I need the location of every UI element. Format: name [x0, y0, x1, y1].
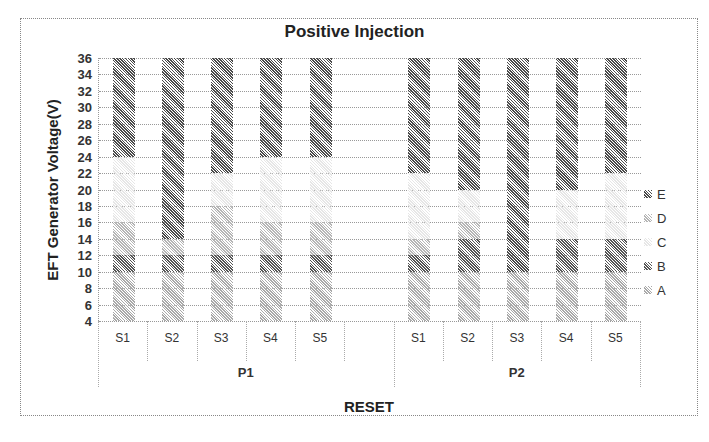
- bar-segment-C: [556, 190, 578, 239]
- bar-segment-E: [162, 58, 184, 239]
- y-tick-label: 10: [62, 264, 92, 279]
- bar-segment-C: [458, 190, 480, 223]
- x-separator: [443, 321, 444, 361]
- bar-segment-E: [113, 58, 135, 157]
- bar-segment-E: [260, 58, 282, 157]
- bar-segment-A: [113, 272, 135, 321]
- bar-segment-B: [556, 239, 578, 272]
- legend-label: D: [657, 211, 666, 226]
- x-separator: [197, 321, 198, 361]
- stacked-bar: [260, 58, 282, 321]
- legend-item-A: A: [644, 278, 666, 302]
- x-category-label: S1: [398, 331, 438, 345]
- stacked-bar: [162, 58, 184, 321]
- legend-swatch: [644, 190, 652, 198]
- bar-segment-B: [458, 239, 480, 272]
- stacked-bar: [605, 58, 627, 321]
- x-category-label: S3: [201, 331, 241, 345]
- bar-segment-D: [408, 239, 430, 255]
- x-separator: [640, 321, 641, 387]
- bar-segment-D: [162, 239, 184, 255]
- bar-segment-C: [605, 173, 627, 239]
- bar-segment-E: [605, 58, 627, 173]
- y-tick-label: 24: [62, 149, 92, 164]
- x-separator: [591, 321, 592, 361]
- bar-segment-C: [113, 157, 135, 223]
- bar-segment-A: [260, 272, 282, 321]
- bar-segment-C: [408, 173, 430, 239]
- bar-segment-A: [605, 272, 627, 321]
- bar-segment-A: [310, 272, 332, 321]
- bar-segment-D: [113, 222, 135, 255]
- bar-segment-A: [507, 272, 529, 321]
- y-tick-label: 28: [62, 116, 92, 131]
- y-tick-label: 20: [62, 182, 92, 197]
- x-axis: S1S2S3S4S5S1S2S3S4S5P1P2: [98, 321, 640, 387]
- stacked-bar: [211, 58, 233, 321]
- bar-segment-E: [211, 58, 233, 173]
- bar-segment-D: [211, 206, 233, 255]
- bar-segment-E: [458, 58, 480, 190]
- x-category-label: S4: [250, 331, 290, 345]
- stacked-bar: [507, 58, 529, 321]
- y-tick-label: 22: [62, 166, 92, 181]
- x-category-label: S4: [546, 331, 586, 345]
- bar-segment-D: [458, 222, 480, 238]
- legend-swatch: [644, 238, 652, 246]
- bar-segment-B: [211, 255, 233, 271]
- x-category-label: S2: [448, 331, 488, 345]
- x-group-label: P1: [226, 365, 266, 380]
- y-tick-label: 12: [62, 248, 92, 263]
- bar-segment-C: [260, 157, 282, 223]
- stacked-bar: [408, 58, 430, 321]
- y-tick-label: 6: [62, 297, 92, 312]
- x-group-label: P2: [497, 365, 537, 380]
- bar-segment-B: [260, 255, 282, 271]
- y-tick-label: 26: [62, 133, 92, 148]
- x-category-label: S5: [300, 331, 340, 345]
- x-category-label: S3: [497, 331, 537, 345]
- bar-segment-B: [605, 239, 627, 272]
- bar-segment-E: [507, 58, 529, 272]
- x-separator: [98, 321, 99, 387]
- legend-swatch: [644, 286, 652, 294]
- stacked-bar: [113, 58, 135, 321]
- chart-title: Positive Injection: [0, 22, 709, 42]
- bar-segment-D: [260, 222, 282, 255]
- bar-segment-A: [162, 272, 184, 321]
- y-tick-label: 32: [62, 83, 92, 98]
- legend-label: E: [657, 187, 666, 202]
- stacked-bar: [556, 58, 578, 321]
- y-tick-label: 14: [62, 231, 92, 246]
- bar-segment-A: [408, 272, 430, 321]
- legend-item-E: E: [644, 182, 666, 206]
- bar-segment-B: [310, 255, 332, 271]
- bar-segment-E: [556, 58, 578, 190]
- bar-segment-D: [310, 222, 332, 255]
- legend-label: A: [657, 283, 666, 298]
- x-axis-label: RESET: [98, 398, 640, 415]
- legend-item-C: C: [644, 230, 666, 254]
- x-category-label: S2: [152, 331, 192, 345]
- x-separator: [147, 321, 148, 361]
- bar-segment-E: [408, 58, 430, 173]
- bar-segment-B: [408, 255, 430, 271]
- bar-segment-B: [162, 255, 184, 271]
- legend-item-D: D: [644, 206, 666, 230]
- y-tick-label: 18: [62, 198, 92, 213]
- y-tick-label: 8: [62, 281, 92, 296]
- x-separator: [541, 321, 542, 361]
- x-separator: [492, 321, 493, 361]
- y-tick-label: 4: [62, 314, 92, 329]
- y-tick-label: 30: [62, 100, 92, 115]
- legend-item-B: B: [644, 254, 666, 278]
- bar-segment-B: [113, 255, 135, 271]
- x-separator: [394, 321, 395, 387]
- legend-swatch: [644, 262, 652, 270]
- stacked-bar: [310, 58, 332, 321]
- legend-swatch: [644, 214, 652, 222]
- x-separator: [246, 321, 247, 361]
- bar-segment-A: [211, 272, 233, 321]
- y-axis-label: EFT Generator Voltage(V): [44, 99, 61, 280]
- legend-label: B: [657, 259, 666, 274]
